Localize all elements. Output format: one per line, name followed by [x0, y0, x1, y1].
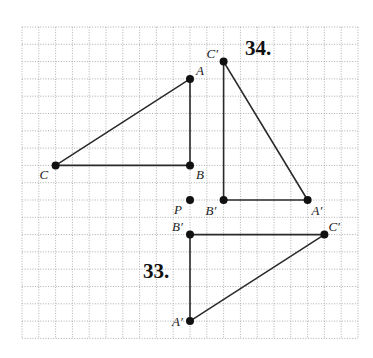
coordinate-grid-figure: ABCC′B′A′B′C′A′P 34. 33. [0, 0, 373, 358]
point-triangle-33-image-B′ [186, 231, 194, 239]
point-center-P [186, 196, 194, 204]
point-triangle-34-image-C′ [220, 58, 228, 66]
point-label: A′ [311, 203, 323, 218]
point-triangle-33-image-A′ [186, 317, 194, 325]
point-triangle-33-image-C′ [320, 231, 328, 239]
point-label: C [40, 167, 49, 182]
point-label: B [196, 167, 204, 182]
point-triangle-ABC-C [52, 161, 60, 169]
point-triangle-ABC-A [186, 75, 194, 83]
problem-number-34: 34. [245, 36, 271, 60]
point-label: A′ [171, 314, 183, 329]
point-label: P [173, 202, 182, 217]
point-triangle-ABC-B [186, 161, 194, 169]
rotation-diagram: ABCC′B′A′B′C′A′P 34. 33. [0, 0, 373, 358]
problem-number-33: 33. [143, 259, 169, 283]
point-label: C′ [207, 46, 219, 61]
point-label: B′ [206, 203, 217, 218]
point-label: B′ [172, 219, 183, 234]
point-triangle-34-image-A′ [304, 196, 312, 204]
point-triangle-34-image-B′ [220, 196, 228, 204]
point-label: A [195, 63, 204, 78]
point-label: C′ [328, 219, 340, 234]
